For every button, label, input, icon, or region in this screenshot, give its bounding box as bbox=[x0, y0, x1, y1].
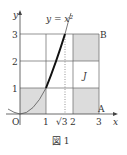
y-axis-label: y bbox=[12, 10, 19, 20]
x-axis-label: x bbox=[113, 117, 118, 127]
origin-label: O bbox=[12, 117, 19, 127]
point-b-label: B bbox=[100, 30, 107, 40]
y-tick-3: 3 bbox=[12, 30, 18, 40]
x-tick-sqrt3: √3 bbox=[56, 117, 68, 127]
point-a-label: A bbox=[97, 104, 105, 114]
region-j-label: J bbox=[81, 71, 88, 81]
shaded-cell-2-3-high bbox=[73, 34, 99, 61]
shaded-cell-0-1 bbox=[20, 88, 46, 114]
y-tick-2: 2 bbox=[12, 57, 18, 67]
curve-label: y = x² bbox=[45, 14, 73, 24]
x-axis-arrow-icon bbox=[113, 112, 118, 116]
y-axis-arrow-icon bbox=[18, 10, 22, 15]
figure-diagram: y y = x² 3 2 1 B A J O 1 √3 2 3 x 図 1 bbox=[0, 0, 127, 155]
figure-caption: 図 1 bbox=[52, 136, 70, 146]
x-tick-3: 3 bbox=[96, 117, 102, 127]
x-tick-2: 2 bbox=[70, 117, 76, 127]
x-tick-1: 1 bbox=[43, 117, 49, 127]
shaded-cell-2-3-low bbox=[73, 88, 99, 114]
y-tick-1: 1 bbox=[12, 84, 18, 94]
